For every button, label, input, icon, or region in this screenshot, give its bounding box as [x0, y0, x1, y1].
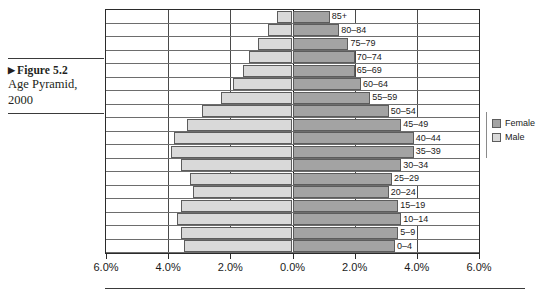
bar-male — [277, 11, 293, 23]
age-group-label: 10–14 — [402, 213, 429, 227]
axis-tick-label: 6.0% — [93, 261, 118, 273]
bar-female — [293, 51, 355, 63]
axis-tick-label: 4.0% — [404, 261, 429, 273]
bar-female — [293, 105, 389, 117]
bar-male — [233, 78, 292, 90]
bar-male — [187, 119, 293, 131]
age-group-label: 45–49 — [402, 118, 429, 132]
bar-male — [193, 186, 292, 198]
legend-label: Female — [505, 118, 535, 128]
bar-female — [293, 38, 349, 50]
axis-tick-label: 2.0% — [342, 261, 367, 273]
age-group-label: 40–44 — [415, 132, 442, 146]
age-group-label: 60–64 — [362, 78, 389, 92]
pyramid-row: 35–39 — [106, 145, 479, 159]
bar-female — [293, 119, 402, 131]
bar-male — [177, 213, 292, 225]
legend-swatch-male — [492, 133, 501, 142]
pyramid-row: 25–29 — [106, 172, 479, 186]
pyramid-row: 20–24 — [106, 186, 479, 200]
legend-swatch-female — [492, 119, 501, 128]
bar-male — [202, 105, 292, 117]
pyramid-row: 60–64 — [106, 78, 479, 92]
figure-number-text: Figure 5.2 — [17, 64, 68, 76]
age-group-label: 30–34 — [402, 159, 429, 173]
axis-tick-label: 2.0% — [218, 261, 243, 273]
bar-male — [181, 200, 293, 212]
axis-tick-label: 4.0% — [156, 261, 181, 273]
age-pyramid-chart: 85+80–8475–7970–7465–6960–6455–5950–5445… — [105, 9, 480, 254]
pyramid-row: 70–74 — [106, 51, 479, 65]
bar-female — [293, 65, 355, 77]
bar-female — [293, 213, 402, 225]
bar-male — [268, 24, 293, 36]
age-group-label: 80–84 — [340, 24, 367, 38]
bar-male — [258, 38, 292, 50]
bar-male — [174, 132, 292, 144]
bar-male — [190, 173, 293, 185]
legend-item: Female — [492, 118, 535, 128]
bar-female — [293, 132, 414, 144]
bar-male — [221, 92, 292, 104]
pyramid-row: 15–19 — [106, 199, 479, 213]
bar-male — [184, 240, 293, 252]
axis-tick — [106, 254, 107, 259]
pyramid-row: 85+ — [106, 10, 479, 24]
age-group-label: 75–79 — [349, 37, 376, 51]
age-group-label: 85+ — [331, 10, 348, 24]
legend-item: Male — [492, 132, 535, 142]
plot-area: 85+80–8475–7970–7465–6960–6455–5950–5445… — [106, 10, 479, 253]
pyramid-row: 65–69 — [106, 64, 479, 78]
bar-female — [293, 11, 330, 23]
axis-tick — [479, 254, 480, 259]
figure-title: Age Pyramid, — [8, 77, 104, 92]
bar-male — [171, 146, 292, 158]
age-group-label: 65–69 — [356, 64, 383, 78]
bar-female — [293, 24, 340, 36]
bar-male — [243, 65, 293, 77]
chart-legend: FemaleMale — [492, 118, 535, 146]
age-group-label: 25–29 — [393, 172, 420, 186]
axis-tick — [230, 254, 231, 259]
triangle-marker-icon: ▶ — [8, 65, 15, 75]
figure-year: 2000 — [8, 93, 104, 108]
pyramid-row: 5–9 — [106, 226, 479, 240]
caption-rule-top — [8, 58, 104, 59]
age-group-label: 0–4 — [396, 240, 413, 254]
pyramid-row: 75–79 — [106, 37, 479, 51]
bar-female — [293, 200, 399, 212]
bar-female — [293, 78, 361, 90]
pyramid-row: 45–49 — [106, 118, 479, 132]
bar-male — [181, 227, 293, 239]
axis-tick — [293, 254, 294, 259]
pyramid-row: 0–4 — [106, 240, 479, 254]
axis-tick-label: 6.0% — [466, 261, 491, 273]
axis-tick — [168, 254, 169, 259]
caption-rule-bottom — [8, 113, 104, 114]
pyramid-row: 40–44 — [106, 132, 479, 146]
legend-divider — [486, 112, 487, 158]
legend-label: Male — [505, 132, 525, 142]
pyramid-row: 10–14 — [106, 213, 479, 227]
bar-female — [293, 146, 414, 158]
pyramid-row: 80–84 — [106, 24, 479, 38]
age-group-label: 70–74 — [356, 51, 383, 65]
axis-tick — [355, 254, 356, 259]
age-group-label: 5–9 — [399, 226, 416, 240]
age-group-label: 55–59 — [371, 91, 398, 105]
bar-female — [293, 173, 392, 185]
axis-tick-label: 0.0% — [280, 261, 305, 273]
axis-tick — [417, 254, 418, 259]
row-separator — [106, 252, 479, 253]
age-group-label: 35–39 — [415, 145, 442, 159]
bar-female — [293, 240, 396, 252]
bar-female — [293, 227, 399, 239]
pyramid-row: 30–34 — [106, 159, 479, 173]
age-group-label: 15–19 — [399, 199, 426, 213]
age-group-label: 50–54 — [390, 105, 417, 119]
pyramid-row: 50–54 — [106, 105, 479, 119]
age-group-label: 20–24 — [390, 186, 417, 200]
figure-number: ▶Figure 5.2 — [8, 64, 104, 76]
bar-female — [293, 92, 371, 104]
figure-caption: ▶Figure 5.2 Age Pyramid, 2000 — [8, 58, 104, 114]
